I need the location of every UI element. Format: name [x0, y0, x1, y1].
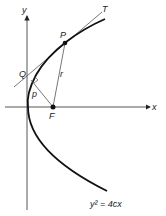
parabola-curve [28, 19, 107, 191]
x-axis-label: x [151, 102, 157, 112]
point-F-label: F [49, 111, 55, 121]
parabola-equation: y² = 4cx [89, 199, 122, 209]
parabola-diagram: y x T P Q F r p y² = 4cx [0, 0, 166, 216]
y-axis-label: y [21, 5, 27, 15]
tangent-label: T [102, 4, 109, 14]
point-Q-label: Q [19, 69, 26, 79]
focal-radius-label: r [60, 69, 64, 79]
point-P [63, 41, 68, 46]
perpendicular-label: p [31, 89, 37, 99]
point-F [51, 105, 56, 110]
point-P-label: P [60, 30, 66, 40]
